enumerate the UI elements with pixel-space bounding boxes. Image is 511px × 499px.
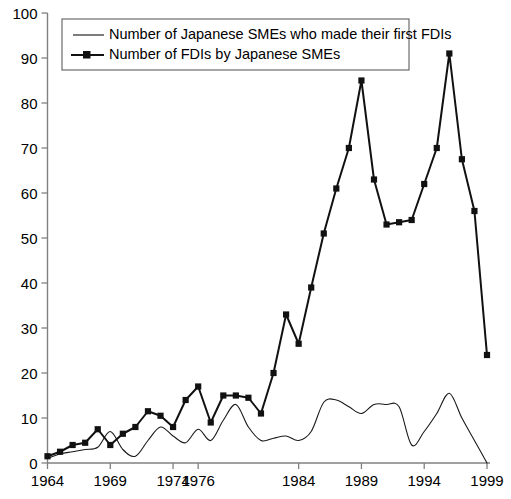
data-point-marker <box>132 424 138 430</box>
y-tick-label: 50 <box>21 230 38 247</box>
data-point-marker <box>70 442 76 448</box>
data-point-marker <box>484 352 490 358</box>
x-axis: 19641969197419761984198919941999 <box>31 463 504 489</box>
x-tick-label: 1976 <box>181 472 214 489</box>
series-markers-number-of-fdis <box>44 50 490 459</box>
y-tick-labels: 0102030405060708090100 <box>12 5 37 472</box>
y-tick-label: 80 <box>21 95 38 112</box>
data-point-marker <box>44 453 50 459</box>
data-point-marker <box>220 392 226 398</box>
x-tick-label: 1969 <box>94 472 127 489</box>
data-point-marker <box>333 185 339 191</box>
data-point-marker <box>308 284 314 290</box>
series-group <box>44 50 490 463</box>
y-tick-marks <box>42 13 48 463</box>
series-line-first-fdis <box>48 393 488 463</box>
data-point-marker <box>283 311 289 317</box>
x-tick-label: 1984 <box>282 472 315 489</box>
y-axis: 0102030405060708090100 <box>12 5 47 472</box>
data-point-marker <box>459 156 465 162</box>
x-tick-marks <box>48 463 488 469</box>
y-tick-label: 90 <box>21 50 38 67</box>
x-tick-label: 1964 <box>31 472 64 489</box>
x-tick-label: 1989 <box>345 472 378 489</box>
data-point-marker <box>296 341 302 347</box>
legend-square-marker-icon <box>83 51 91 59</box>
data-point-marker <box>183 397 189 403</box>
data-point-marker <box>57 449 63 455</box>
data-point-marker <box>270 370 276 376</box>
data-point-marker <box>471 208 477 214</box>
x-tick-label: 1999 <box>470 472 503 489</box>
x-tick-label: 1994 <box>408 472 441 489</box>
y-tick-label: 60 <box>21 185 38 202</box>
data-point-marker <box>208 419 214 425</box>
data-point-marker <box>120 431 126 437</box>
data-point-marker <box>82 440 88 446</box>
data-point-marker <box>170 424 176 430</box>
legend-label-first-fdis: Number of Japanese SMEs who made their f… <box>109 26 452 42</box>
y-tick-label: 20 <box>21 365 38 382</box>
data-point-marker <box>383 221 389 227</box>
legend: Number of Japanese SMEs who made their f… <box>62 19 452 70</box>
data-point-marker <box>434 145 440 151</box>
legend-entry-first-fdis: Number of Japanese SMEs who made their f… <box>73 26 452 42</box>
data-point-marker <box>421 181 427 187</box>
series-line-number-of-fdis <box>48 54 488 457</box>
data-point-marker <box>321 230 327 236</box>
data-point-marker <box>371 176 377 182</box>
data-point-marker <box>233 392 239 398</box>
y-tick-label: 70 <box>21 140 38 157</box>
y-tick-label: 40 <box>21 275 38 292</box>
legend-entry-number-of-fdis: Number of FDIs by Japanese SMEs <box>71 46 340 62</box>
data-point-marker <box>346 145 352 151</box>
data-point-marker <box>95 426 101 432</box>
line-chart: 0102030405060708090100 19641969197419761… <box>0 0 511 499</box>
chart-container: 0102030405060708090100 19641969197419761… <box>0 0 511 499</box>
y-tick-label: 30 <box>21 320 38 337</box>
data-point-marker <box>245 395 251 401</box>
data-point-marker <box>157 413 163 419</box>
y-tick-label: 0 <box>29 455 37 472</box>
data-point-marker <box>409 217 415 223</box>
data-point-marker <box>195 383 201 389</box>
data-point-marker <box>258 410 264 416</box>
x-tick-labels: 19641969197419761984198919941999 <box>31 472 504 489</box>
data-point-marker <box>145 408 151 414</box>
legend-label-number-of-fdis: Number of FDIs by Japanese SMEs <box>109 46 340 62</box>
y-tick-label: 10 <box>21 410 38 427</box>
y-tick-label: 100 <box>12 5 37 22</box>
data-point-marker <box>396 219 402 225</box>
data-point-marker <box>107 442 113 448</box>
data-point-marker <box>446 50 452 56</box>
data-point-marker <box>358 77 364 83</box>
